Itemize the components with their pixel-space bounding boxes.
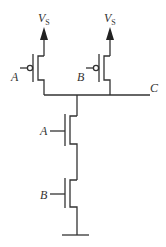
supply-label-right: VS [104,12,116,27]
pmos-input-a-label: A [11,71,18,83]
supply-arrow-icon [106,27,114,40]
nmos-input-a-label: A [40,125,47,137]
nmos-b [50,178,77,235]
pmos-b [86,38,110,95]
output-label: C [150,82,158,94]
pmos-input-b-label: B [77,71,84,83]
supply-arrow-icon [40,27,48,40]
nmos-input-b-label: B [40,189,47,201]
pmos-a [20,38,44,95]
supply-label-left: VS [38,12,50,27]
nmos-a [50,114,77,180]
nand-circuit [0,0,166,247]
